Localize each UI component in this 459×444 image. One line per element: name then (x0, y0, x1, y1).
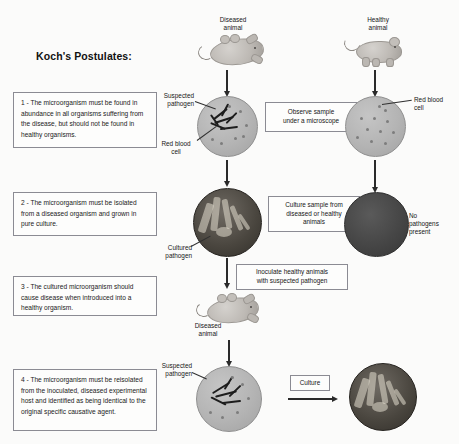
arrow-culture-to-inoculate (226, 258, 228, 284)
healthy-mouse-top (342, 33, 412, 67)
petri-dish-final-culture (349, 363, 417, 431)
inoculate-box: Inoculate healthy animals with suspected… (236, 264, 348, 290)
label-red-blood-cell-left: Red blood cell (151, 140, 201, 156)
postulate-3-box: 3 - The cultured microorganism should ca… (13, 276, 157, 316)
postulate-1-box: 1 - The microorganism must be found in a… (13, 92, 157, 148)
petri-dish-no-pathogens (344, 192, 409, 257)
page-title: Koch's Postulates: (36, 50, 132, 62)
label-suspected-pathogen-bottom: Suspected pathogen (146, 362, 192, 378)
diseased-mouse-top (198, 33, 268, 67)
petri-dish-cultured-pathogen (193, 188, 262, 257)
label-diseased-animal-bottom: Diseased animal (180, 322, 236, 338)
arrow-animal-to-final-dish (228, 340, 230, 362)
label-cultured-pathogen: Cultured pathogen (146, 244, 192, 260)
petri-dish-suspected-pathogen-bottom (196, 366, 262, 432)
arrow-healthy-to-dish (374, 70, 376, 92)
label-healthy-animal-top: Healthy animal (348, 16, 408, 32)
label-diseased-animal-top: Diseased animal (203, 16, 263, 32)
label-no-pathogens-present: No pathogens present (409, 212, 455, 237)
arrow-to-final-culture (288, 398, 332, 400)
label-suspected-pathogen-top: Suspected pathogen (150, 92, 194, 108)
diseased-mouse-bottom (196, 293, 266, 325)
kochs-postulates-diagram: Koch's Postulates: 1 - The microorganism… (0, 0, 459, 444)
arrow-dish-to-culture-right (374, 160, 376, 188)
postulate-2-box: 2 - The microorganism must be isolated f… (13, 192, 157, 236)
postulate-4-box: 4 - The microorganism must be reisolated… (13, 369, 157, 431)
culture-box: Culture (290, 375, 330, 391)
petri-dish-healthy-top (345, 96, 406, 157)
arrow-diseased-to-dish (226, 70, 228, 92)
observe-sample-box: Observe sample under a microscope (265, 102, 357, 132)
label-red-blood-cell-right: Red blood cell (414, 96, 458, 112)
arrow-dish-to-culture-left (226, 160, 228, 182)
